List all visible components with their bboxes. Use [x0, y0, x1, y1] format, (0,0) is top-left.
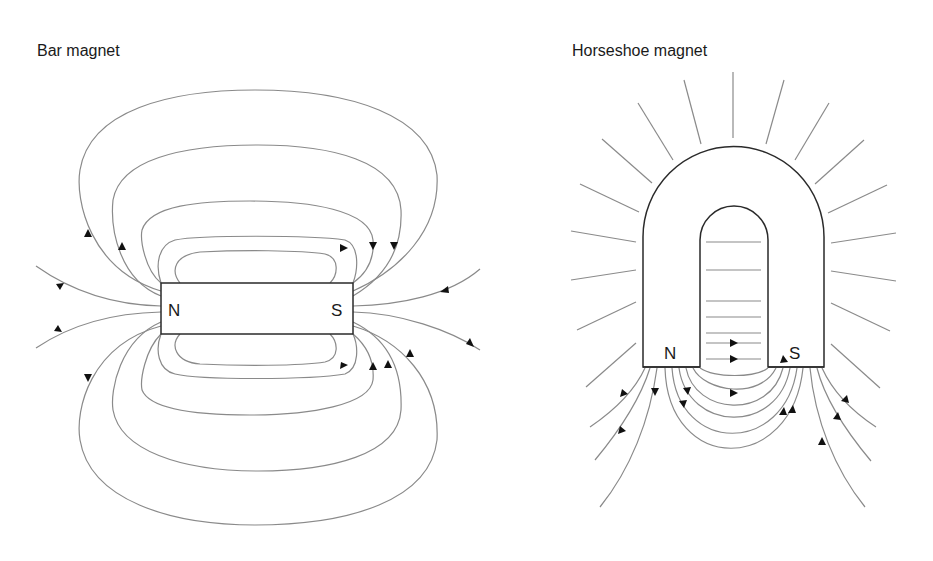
arrow-icon: [730, 339, 738, 347]
magnetic-field-diagram: N S N S: [0, 0, 933, 561]
arrow-icon: [788, 405, 796, 413]
field-line-upper-2: [113, 145, 402, 296]
arrow-icon: [779, 407, 787, 415]
arrow-icon: [730, 389, 738, 397]
arrow-icon: [440, 286, 449, 293]
field-line-open-right-top: [353, 269, 480, 306]
arrow-icon: [466, 338, 474, 347]
horseshoe-lower-field-lines: [590, 368, 876, 507]
arrow-icon: [730, 355, 738, 363]
field-line-upper-1: [79, 90, 437, 291]
horseshoe-south-label: S: [789, 344, 800, 363]
horseshoe-arrows: [618, 355, 849, 445]
field-line-upper-3: [142, 201, 374, 283]
field-line-open-right-bottom: [353, 312, 480, 350]
horseshoe-magnet-body: [643, 147, 824, 368]
bar-south-label: S: [331, 301, 342, 320]
arrow-icon: [369, 362, 377, 370]
bar-magnet-body: [161, 283, 353, 334]
field-line-lower-4: [158, 334, 357, 379]
horseshoe-gap-field-lines: [706, 242, 761, 363]
field-line-open-left-top: [36, 266, 161, 306]
field-line-lower-2: [113, 322, 402, 471]
arrow-icon: [54, 325, 62, 332]
bar-north-label: N: [168, 301, 180, 320]
field-line-upper-4: [158, 236, 357, 283]
arrow-icon: [679, 400, 687, 408]
arrow-icon: [340, 362, 348, 369]
field-line-upper-5: [175, 251, 336, 283]
arrow-icon: [683, 387, 691, 395]
horseshoe-radial-lines: [571, 72, 896, 388]
arrow-icon: [118, 242, 126, 250]
arrow-icon: [818, 437, 826, 445]
arrow-icon: [369, 242, 377, 250]
arrow-icon: [56, 283, 64, 290]
horseshoe-magnet: N S: [643, 147, 824, 368]
arrow-icon: [384, 360, 392, 368]
bar-magnet: N S: [161, 283, 353, 334]
arrow-icon: [406, 349, 414, 357]
arrow-icon: [340, 244, 348, 252]
field-line-lower-1: [79, 326, 437, 525]
horseshoe-north-label: N: [664, 344, 676, 363]
field-line-lower-5: [175, 334, 336, 365]
